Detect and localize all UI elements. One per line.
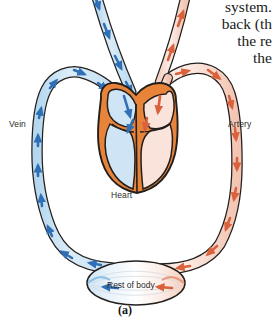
heart-label: Heart <box>111 190 132 200</box>
heart-septum <box>136 104 137 192</box>
vein-label: Vein <box>9 119 26 129</box>
right-ventricle <box>105 124 135 189</box>
heart-organ <box>98 83 178 193</box>
body-text-line-4: the <box>186 49 272 66</box>
body-text-line-2: back (th <box>186 15 272 32</box>
circulatory-system-figure: system. back (th the re the Vein Artery … <box>0 0 272 325</box>
body-text-line-1: system. <box>186 0 272 15</box>
rest-of-body-label: Rest of body <box>107 280 155 290</box>
body-text-line-3: the re <box>186 32 272 49</box>
figure-caption: (a) <box>0 303 250 318</box>
body-inflow-arrow <box>158 287 172 288</box>
artery-label: Artery <box>228 119 251 129</box>
surrounding-body-text: system. back (th the re the <box>186 0 272 66</box>
